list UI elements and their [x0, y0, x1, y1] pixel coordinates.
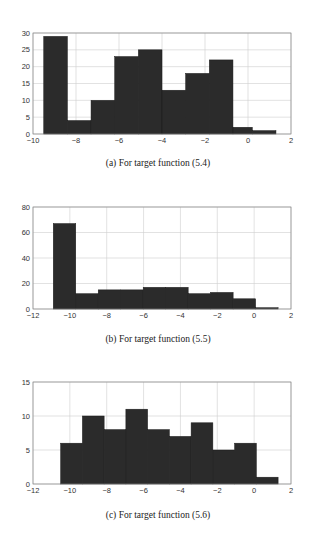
- x-tick-label: −8: [72, 136, 81, 145]
- caption-c: (c) For target function (5.6): [0, 510, 316, 520]
- x-tick-label: −6: [115, 136, 124, 145]
- histogram-bar: [61, 443, 83, 484]
- histogram-bar: [138, 50, 162, 134]
- histogram-bar: [53, 224, 75, 309]
- y-tick-label: 10: [22, 412, 30, 421]
- caption-a: (a) For target function (5.4): [0, 158, 316, 168]
- y-tick-label: 5: [26, 113, 30, 122]
- x-tick-label: 0: [252, 311, 256, 320]
- histogram-bar: [188, 294, 210, 309]
- histogram-bar: [148, 430, 170, 484]
- histogram-bar: [91, 100, 115, 134]
- histogram-b: −12−10−8−6−4−202020406080: [0, 195, 316, 325]
- x-tick-label: 2: [289, 136, 293, 145]
- histogram-bar: [186, 73, 210, 134]
- x-tick-label: −4: [176, 486, 185, 495]
- y-tick-label: 5: [26, 446, 30, 455]
- histogram-bar: [211, 292, 233, 309]
- histogram-bar: [235, 443, 257, 484]
- histogram-bar: [256, 477, 278, 484]
- histogram-a-plot: −10−8−6−4−202051015202530: [0, 20, 316, 150]
- x-tick-label: −6: [139, 311, 148, 320]
- y-tick-label: 10: [22, 96, 30, 105]
- histogram-bar: [76, 294, 98, 309]
- histogram-c-plot: −12−10−8−6−4−202051015: [0, 370, 316, 500]
- x-tick-label: −4: [176, 311, 185, 320]
- x-tick-label: −2: [213, 486, 222, 495]
- x-tick-label: −8: [102, 311, 111, 320]
- x-tick-label: −8: [102, 486, 111, 495]
- x-tick-label: 0: [252, 486, 256, 495]
- histogram-bar: [98, 290, 120, 309]
- y-tick-label: 30: [22, 29, 30, 38]
- x-tick-label: −2: [213, 311, 222, 320]
- y-tick-label: 15: [22, 79, 30, 88]
- y-tick-label: 15: [22, 378, 30, 387]
- y-tick-label: 20: [22, 279, 30, 288]
- histogram-a: −10−8−6−4−202051015202530: [0, 20, 316, 150]
- y-tick-label: 20: [22, 62, 30, 71]
- y-tick-label: 0: [26, 305, 30, 314]
- histogram-bar: [162, 90, 186, 134]
- x-tick-label: 0: [246, 136, 250, 145]
- x-tick-label: 2: [289, 311, 293, 320]
- histogram-bar: [209, 60, 233, 134]
- x-tick-label: −2: [201, 136, 210, 145]
- x-tick-label: −6: [139, 486, 148, 495]
- histogram-bar: [233, 299, 255, 309]
- x-tick-label: −10: [63, 486, 76, 495]
- y-tick-label: 0: [26, 480, 30, 489]
- caption-b: (b) For target function (5.5): [0, 334, 316, 344]
- x-tick-label: −10: [63, 311, 76, 320]
- histogram-bar: [213, 450, 235, 484]
- histogram-bar: [143, 287, 165, 309]
- histogram-c: −12−10−8−6−4−202051015: [0, 370, 316, 500]
- y-tick-label: 80: [22, 203, 30, 212]
- histogram-bar: [252, 131, 276, 134]
- histogram-bar: [115, 57, 139, 134]
- y-tick-label: 60: [22, 228, 30, 237]
- histogram-bar: [191, 423, 213, 484]
- histogram-bar: [121, 290, 143, 309]
- histogram-bar: [44, 36, 68, 134]
- histogram-b-plot: −12−10−8−6−4−202020406080: [0, 195, 316, 325]
- histogram-bar: [126, 409, 148, 484]
- histogram-bar: [233, 127, 252, 134]
- histogram-bar: [166, 287, 188, 309]
- histogram-bar: [82, 416, 104, 484]
- x-tick-label: 2: [289, 486, 293, 495]
- histogram-bar: [67, 121, 91, 134]
- histogram-bar: [104, 430, 126, 484]
- y-tick-label: 40: [22, 254, 30, 263]
- y-tick-label: 25: [22, 45, 30, 54]
- x-tick-label: −4: [158, 136, 167, 145]
- histogram-bar: [169, 436, 191, 484]
- y-tick-label: 0: [26, 130, 30, 139]
